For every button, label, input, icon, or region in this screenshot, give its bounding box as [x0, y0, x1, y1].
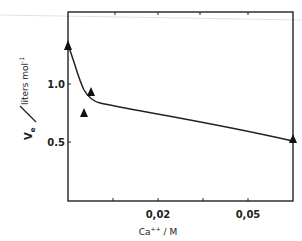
marker-3 — [87, 87, 95, 96]
marker-4 — [289, 134, 297, 143]
x-tick-0.05: 0,05 — [236, 209, 261, 220]
svg-text:liters mol-1: liters mol-1 — [18, 57, 30, 105]
plot-frame — [68, 12, 293, 201]
x-axis-label: Ca++ / M — [139, 225, 177, 237]
x-tick-0.02: 0,02 — [146, 209, 171, 220]
scan-artifact-line — [0, 15, 302, 20]
y-axis-label: Ve liters mol-1 — [18, 57, 37, 140]
svg-text:Ve: Ve — [23, 127, 37, 140]
y-tick-0.5: 0.5 — [47, 137, 65, 148]
data-markers — [64, 40, 297, 143]
marker-2 — [80, 108, 88, 117]
fitted-curve — [68, 45, 293, 141]
marker-1 — [64, 40, 72, 50]
y-tick-1.0: 1.0 — [47, 79, 65, 90]
chart: 1.0 0.5 0,02 0,05 Ca++ / M Ve liters mol… — [0, 0, 302, 241]
